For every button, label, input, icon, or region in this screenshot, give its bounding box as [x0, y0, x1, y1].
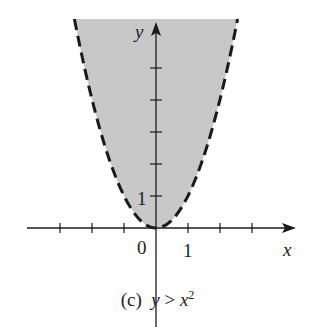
- caption-lhs: y: [151, 289, 159, 310]
- figure-caption: (c) y > x2: [0, 288, 315, 311]
- caption-rhs-exponent: 2: [188, 288, 194, 302]
- origin-label: 0: [137, 238, 147, 257]
- inequality-graph: [0, 0, 315, 327]
- x-axis-label: x: [283, 240, 291, 259]
- x-tick-label-1: 1: [183, 241, 193, 260]
- y-tick-label-1: 1: [137, 189, 147, 208]
- y-axis-label: y: [135, 22, 143, 41]
- caption-operator: >: [164, 289, 175, 310]
- caption-prefix: (c): [121, 289, 142, 310]
